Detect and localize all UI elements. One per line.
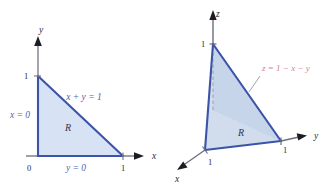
x-axis-line xyxy=(185,150,205,164)
tick-label-z-1: 1 xyxy=(201,39,205,49)
tick-label-x-1: 1 xyxy=(121,163,125,173)
x-axis-label: x xyxy=(151,151,157,161)
plane-label-leader-line xyxy=(249,76,260,92)
label-hypotenuse-equation: x + y = 1 xyxy=(65,92,102,102)
z-axis-label: z xyxy=(215,9,220,19)
tick-label-origin: 0 xyxy=(27,163,31,173)
tick-label-y-1: 1 xyxy=(24,71,28,81)
label-bottom-edge-equation: y = 0 xyxy=(65,163,86,173)
x-axis-label: x xyxy=(174,174,180,184)
y-axis-line xyxy=(281,137,299,141)
x-axis-arrow-icon xyxy=(134,152,144,160)
region-label-R: R xyxy=(64,122,71,133)
math-figure: y x 1 0 1 x + y = 1 x = 0 y = 0 R xyxy=(0,0,326,185)
y-axis-arrow-icon xyxy=(297,133,307,140)
tick-label-y-1: 1 xyxy=(283,145,287,155)
panel-2d-region: y x 1 0 1 x + y = 1 x = 0 y = 0 R xyxy=(0,0,163,185)
region-label-R: R xyxy=(237,127,244,138)
y-axis-label: y xyxy=(38,25,44,35)
y-axis-arrow-icon xyxy=(34,36,42,46)
label-plane-equation: z = 1 − x − y xyxy=(261,63,310,73)
label-left-edge-equation: x = 0 xyxy=(9,110,30,120)
y-axis-label: y xyxy=(313,131,319,141)
tick-label-x-1: 1 xyxy=(208,157,212,167)
panel-3d-solid: z y x 1 1 1 z = 1 − x − y R xyxy=(163,0,326,185)
